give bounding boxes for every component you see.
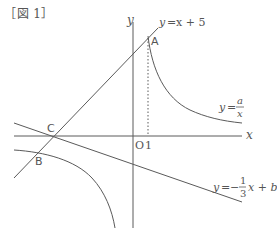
equation-line1: y = x + 5 [158,16,205,29]
coordinate-plane: y x O 1 A C B y = x + 5 y = a x y = − 1 … [0,0,277,234]
svg-text:y: y [218,101,226,114]
svg-text:a: a [237,95,243,106]
y-axis-label: y [126,13,134,27]
svg-text:x + 5: x + 5 [176,16,205,29]
svg-text:=: = [227,101,236,114]
svg-text:=: = [167,16,176,29]
point-b-label: B [35,155,43,168]
point-a-label: A [151,35,159,48]
svg-text:y: y [158,16,166,29]
origin-label: O [135,139,144,152]
svg-text:=: = [221,181,230,194]
svg-text:y: y [212,181,220,194]
svg-text:x: x [237,108,243,119]
svg-text:x + b: x + b [248,181,277,194]
point-c-label: C [47,122,55,135]
tick-label-1: 1 [145,139,152,152]
x-axis-label: x [246,128,253,142]
svg-text:3: 3 [240,188,246,199]
svg-text:−: − [230,181,239,194]
svg-text:1: 1 [240,175,246,186]
equation-hyperbola: y = a x [218,95,244,119]
